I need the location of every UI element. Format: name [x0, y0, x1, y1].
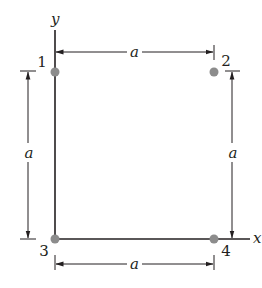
dimension-right: a: [225, 71, 240, 238]
square-charge-diagram: y x a a a a 1 2 3 4: [0, 0, 262, 288]
charge-4-dot: [210, 235, 219, 244]
charge-2-label: 2: [221, 52, 231, 70]
charge-1-label: 1: [37, 53, 47, 71]
left-dimension-label: a: [25, 144, 34, 162]
right-dimension-label: a: [229, 144, 238, 162]
bottom-dimension-label: a: [130, 255, 139, 273]
charge-2-dot: [210, 68, 219, 77]
charge-4-label: 4: [221, 242, 231, 260]
charge-3-label: 3: [39, 242, 49, 260]
y-axis-label: y: [50, 10, 60, 28]
dimension-left: a: [20, 71, 36, 239]
axes: y x: [50, 10, 262, 247]
charge-3-dot: [51, 235, 60, 244]
dimension-top: a: [56, 43, 214, 61]
charge-1-dot: [51, 68, 60, 77]
dimension-bottom: a: [55, 255, 214, 273]
top-dimension-label: a: [130, 43, 139, 61]
x-axis-label: x: [253, 229, 262, 247]
charges: 1 2 3 4: [37, 52, 231, 260]
